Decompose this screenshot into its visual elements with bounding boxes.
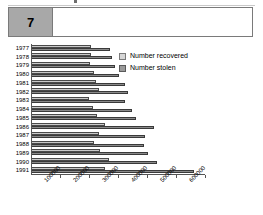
bar-group	[32, 132, 205, 141]
bar-stolen	[32, 161, 157, 164]
y-axis-label: 1991	[16, 167, 29, 173]
y-axis-label: 1978	[16, 54, 29, 60]
bar-stolen	[32, 83, 125, 86]
chart-legend: Number recovered Number stolen	[119, 51, 211, 75]
y-axis-label: 1987	[16, 132, 29, 138]
bar-group	[32, 97, 205, 106]
legend-swatch-recovered-icon	[119, 53, 126, 60]
top-clipped-artifact	[74, 0, 77, 3]
x-axis-labels: 100000200000300000400000500000600000	[31, 179, 231, 215]
y-axis-label: 1990	[16, 159, 29, 165]
y-axis-label: 1981	[16, 80, 29, 86]
legend-swatch-stolen-icon	[119, 65, 126, 72]
bar-stolen	[32, 74, 119, 77]
bar-stolen	[32, 91, 128, 94]
header-title	[53, 8, 252, 36]
bar-stolen	[32, 48, 110, 51]
bar-stolen	[32, 65, 115, 68]
bar-group	[32, 141, 205, 150]
y-axis-label: 1980	[16, 71, 29, 77]
bar-stolen	[32, 144, 144, 147]
bar-chart: 1977197819791980198119821983198419851986…	[0, 40, 263, 215]
bar-stolen	[32, 135, 145, 138]
bar-group	[32, 106, 205, 115]
legend-item-recovered: Number recovered	[119, 51, 211, 61]
bar-stolen	[32, 56, 112, 59]
bar-group	[32, 123, 205, 132]
legend-item-stolen: Number stolen	[119, 63, 211, 73]
y-axis-label: 1984	[16, 106, 29, 112]
bar-group	[32, 80, 205, 89]
bar-group	[32, 88, 205, 97]
y-axis-label: 1989	[16, 150, 29, 156]
bar-stolen	[32, 109, 132, 112]
y-axis-label: 1985	[16, 115, 29, 121]
y-axis-label: 1983	[16, 97, 29, 103]
bar-stolen	[32, 117, 136, 120]
bar-stolen	[32, 100, 125, 103]
legend-label-stolen: Number stolen	[130, 64, 176, 72]
y-axis-label: 1982	[16, 89, 29, 95]
x-axis-tick	[205, 175, 206, 178]
y-axis-labels: 1977197819791980198119821983198419851986…	[0, 44, 29, 175]
bar-stolen	[32, 152, 148, 155]
bar-group	[32, 114, 205, 123]
header-number-box: 7	[9, 8, 53, 36]
y-axis-label: 1988	[16, 141, 29, 147]
y-axis-label: 1977	[16, 45, 29, 51]
bar-stolen	[32, 126, 154, 129]
header-bar: 7	[8, 7, 253, 37]
y-axis-label: 1986	[16, 124, 29, 130]
top-divider-rule	[8, 5, 255, 6]
y-axis-label: 1979	[16, 62, 29, 68]
bar-group	[32, 149, 205, 158]
legend-label-recovered: Number recovered	[130, 52, 188, 60]
